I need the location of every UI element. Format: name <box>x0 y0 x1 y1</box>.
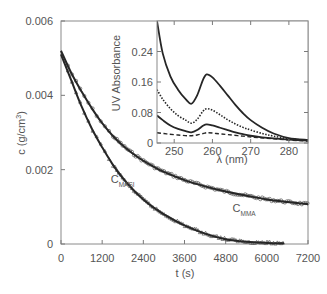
inset-y-tick-label: 0.16 <box>132 76 153 88</box>
inset-y-tick-label: 0.24 <box>132 46 153 58</box>
x-tick-label: 7200 <box>296 252 320 264</box>
inset-chart: 250260270280 00.080.160.24 λ (nm) UV Abs… <box>110 21 308 165</box>
x-tick-label: 0 <box>58 252 64 264</box>
inset-x-tick-label: 280 <box>280 145 298 157</box>
main-y-axis-label: c (g/cm3) <box>15 111 27 155</box>
y-tick-label: 0 <box>47 238 53 250</box>
inset-background <box>157 21 308 143</box>
inset-x-tick-label: 250 <box>165 145 183 157</box>
figure: 0120024003600480060007200 00.0020.0040.0… <box>0 0 327 294</box>
x-tick-label: 2400 <box>131 252 155 264</box>
x-tick-label: 6000 <box>255 252 279 264</box>
curve-label-masi: CMASI <box>111 173 135 188</box>
y-tick-label: 0.006 <box>25 15 53 27</box>
y-tick-label: 0.004 <box>25 89 53 101</box>
x-tick-label: 3600 <box>172 252 196 264</box>
inset-y-tick-label: 0 <box>147 137 153 149</box>
inset-x-axis-label: λ (nm) <box>216 153 247 165</box>
inset-y-axis-label: UV Absorbance <box>110 35 122 111</box>
main-y-axis: 00.0020.0040.006 <box>25 15 65 250</box>
main-x-axis-label: t (s) <box>176 267 195 279</box>
x-tick-label: 1200 <box>90 252 114 264</box>
main-y-axis-label-text: c (g/cm <box>15 119 27 155</box>
x-tick-label: 4800 <box>213 252 237 264</box>
curve-label-mma: CMMA <box>233 202 257 217</box>
inset-y-tick-label: 0.08 <box>132 107 153 119</box>
y-tick-label: 0.002 <box>25 164 53 176</box>
